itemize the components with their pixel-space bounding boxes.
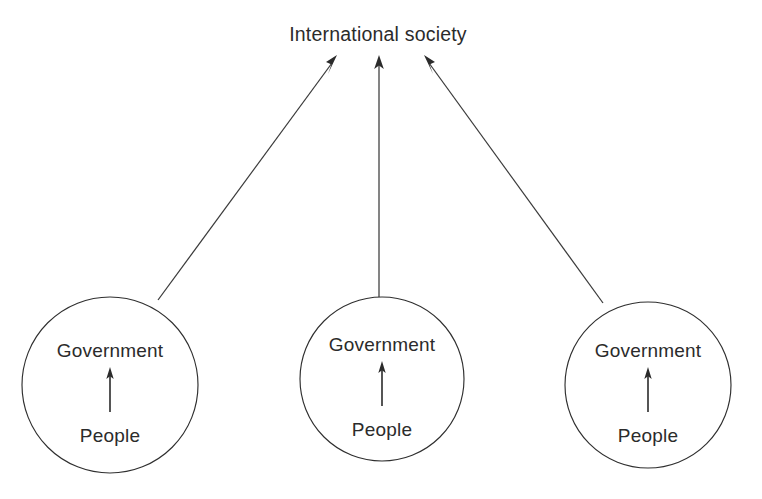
state-node-3: Government People: [565, 302, 731, 468]
connector-right-line: [429, 63, 603, 303]
state-3-government-label: Government: [595, 340, 702, 361]
connector-left: [158, 55, 337, 300]
state-2-government-label: Government: [329, 334, 436, 355]
state-2-people-label: People: [352, 419, 412, 440]
connector-right: [424, 55, 603, 303]
state-node-2: Government People: [300, 297, 464, 461]
diagram-canvas: International society Government People: [0, 0, 762, 499]
top-node-label: International society: [289, 23, 467, 45]
diagram-svg: International society Government People: [0, 0, 762, 499]
state-1-people-label: People: [80, 425, 140, 446]
connector-right-arrowhead: [424, 55, 435, 74]
state-node-1: Government People: [22, 297, 198, 473]
state-3-people-label: People: [618, 425, 678, 446]
connector-middle: [374, 55, 384, 297]
state-1-government-label: Government: [57, 340, 164, 361]
connector-left-arrowhead: [326, 55, 337, 74]
connector-left-line: [158, 63, 332, 300]
